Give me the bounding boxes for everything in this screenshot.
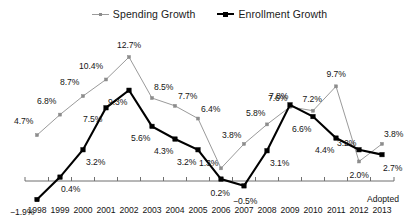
marker-enrollment-2005 (196, 148, 200, 152)
value-label-spending-2006: 1.3% (199, 159, 218, 168)
value-label-spending-2005: 6.4% (201, 105, 220, 114)
x-tick-label-2009: 2009 (281, 206, 300, 215)
marker-enrollment-2006 (219, 177, 223, 181)
value-label-spending-1998: 4.7% (14, 117, 33, 126)
marker-spending-1999 (59, 113, 62, 116)
x-tick-label-2011: 2011 (327, 206, 345, 215)
value-label-spending-2004: 7.7% (178, 92, 197, 101)
value-label-enrollment-2008: 3.1% (270, 159, 289, 168)
value-label-enrollment-2011: 4.4% (315, 146, 334, 155)
value-label-enrollment-2001: 7.5% (83, 115, 102, 124)
value-label-enrollment-2003: 5.6% (131, 134, 150, 143)
x-axis (25, 177, 394, 181)
value-label-spending-2001: 10.4% (79, 62, 103, 71)
x-tick-label-1998: 1998 (28, 206, 47, 215)
marker-enrollment-1999 (58, 175, 62, 179)
x-tick-label-2000: 2000 (74, 206, 93, 215)
marker-spending-2011 (335, 85, 338, 88)
marker-spending-2008 (266, 123, 269, 126)
marker-enrollment-2012 (357, 148, 361, 152)
x-tick-label-2004: 2004 (166, 206, 185, 215)
growth-line-chart: Spending Growth Enrollment Growth 4.7%6.… (0, 0, 419, 219)
value-label-spending-2007: 3.8% (222, 131, 241, 140)
value-label-spending-2011: 9.7% (327, 70, 346, 79)
value-label-enrollment-2004: 4.3% (154, 147, 173, 156)
x-tick-label-2006: 2006 (212, 206, 231, 215)
marker-spending-2007 (243, 142, 246, 145)
value-label-enrollment-2013: 2.7% (383, 164, 402, 173)
x-tick-label-2005: 2005 (189, 206, 208, 215)
value-label-spending-1999: 6.8% (37, 97, 56, 106)
marker-enrollment-2002 (127, 88, 131, 92)
marker-spending-2004 (174, 104, 177, 107)
marker-enrollment-2013 (380, 152, 384, 156)
marker-spending-2010 (312, 109, 315, 112)
marker-spending-2001 (105, 78, 108, 81)
value-label-spending-2003: 8.5% (154, 83, 173, 92)
marker-spending-2005 (197, 117, 200, 120)
marker-spending-2002 (128, 56, 131, 59)
x-tick-label-2012: 2012 (350, 206, 369, 215)
x-tick-label-2001: 2001 (97, 206, 116, 215)
value-label-enrollment-2006: 0.2% (211, 189, 230, 198)
marker-spending-2000 (82, 95, 85, 98)
value-label-enrollment-2012: 3.2% (337, 139, 356, 148)
value-label-spending-2013: 3.8% (384, 130, 403, 139)
value-label-spending-2012: 2.0% (350, 171, 369, 180)
marker-spending-1998 (36, 134, 39, 137)
value-label-spending-2000: 8.7% (60, 78, 79, 87)
value-label-spending-2008: 5.8% (246, 109, 265, 118)
marker-enrollment-2003 (150, 124, 154, 128)
x-tick-label-1999: 1999 (51, 206, 70, 215)
value-label-enrollment-2000: 3.2% (86, 158, 105, 167)
marker-enrollment-2004 (173, 137, 177, 141)
value-label-enrollment-2010: 6.6% (292, 125, 311, 134)
x-tick-label-2002: 2002 (120, 206, 139, 215)
value-label-enrollment-2005: 3.2% (177, 158, 196, 167)
marker-enrollment-2008 (265, 149, 269, 153)
x-tick-label-2003: 2003 (143, 206, 162, 215)
x-tick-label-2010: 2010 (304, 206, 323, 215)
value-label-spending-2002: 12.7% (117, 41, 141, 50)
marker-enrollment-2000 (81, 148, 85, 152)
marker-spending-2013 (381, 142, 384, 145)
value-label-enrollment-1999: 0.4% (61, 185, 80, 194)
marker-spending-2006 (220, 167, 223, 170)
marker-enrollment-2009 (288, 103, 292, 107)
x-tick-label-2007: 2007 (235, 206, 254, 215)
marker-spending-2012 (358, 160, 361, 163)
value-label-enrollment-2002: 9.3% (108, 98, 127, 107)
x-tick-label-2013: 2013 (373, 206, 392, 215)
marker-enrollment-2007 (242, 184, 246, 188)
marker-enrollment-1998 (35, 197, 39, 201)
value-label-spending-2010: 7.2% (303, 95, 322, 104)
x-tick-label-2008: 2008 (258, 206, 277, 215)
marker-spending-2003 (151, 97, 154, 100)
adopted-note: Adopted (367, 195, 399, 204)
marker-enrollment-2010 (311, 114, 315, 118)
value-label-enrollment-2009: 7.8% (269, 92, 288, 101)
